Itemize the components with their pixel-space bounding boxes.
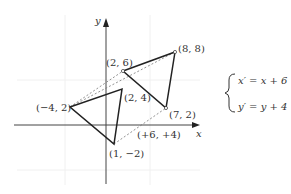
original-triangle bbox=[70, 89, 122, 144]
coordinate-diagram: x y (−4, 2) (2, 4) (1, −2) (2, 6) (8, 8)… bbox=[0, 0, 291, 194]
point-marker bbox=[164, 106, 167, 109]
translation-label: (+6, +4) bbox=[137, 129, 181, 140]
equation-x: x′ = x + 6 bbox=[238, 75, 288, 86]
point-label-a2: (2, 6) bbox=[106, 57, 133, 68]
point-marker bbox=[173, 50, 176, 53]
grid bbox=[17, 15, 200, 185]
y-axis-label: y bbox=[94, 15, 101, 26]
point-label-c2: (7, 2) bbox=[169, 109, 196, 120]
point-label-c: (1, −2) bbox=[109, 148, 144, 159]
x-axis-label: x bbox=[196, 128, 202, 139]
point-label-a: (−4, 2) bbox=[36, 102, 71, 113]
brace-icon bbox=[225, 74, 235, 112]
y-axis-arrow-icon bbox=[103, 18, 109, 27]
point-label-b: (2, 4) bbox=[124, 92, 151, 103]
point-marker bbox=[121, 69, 124, 72]
point-label-b2: (8, 8) bbox=[178, 43, 205, 54]
equation-y: y′ = y + 4 bbox=[237, 101, 287, 112]
